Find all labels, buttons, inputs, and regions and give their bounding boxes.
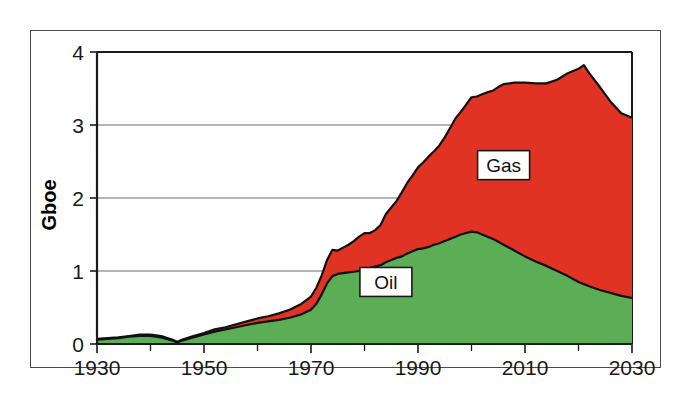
x-tick-label-1990: 1990 xyxy=(395,356,442,379)
x-tick-label-2030: 2030 xyxy=(609,356,656,379)
y-tick-label-0: 0 xyxy=(72,333,84,356)
y-tick-label-3: 3 xyxy=(72,114,84,137)
y-axis-ticks: 01234 xyxy=(72,41,97,356)
x-axis-ticks: 193019501970199020102030 xyxy=(74,344,656,379)
y-tick-label-2: 2 xyxy=(72,187,84,210)
chart-svg: 01234 193019501970199020102030 Gboe GasO… xyxy=(0,0,683,396)
y-axis-title: Gboe xyxy=(38,179,60,230)
x-tick-label-2010: 2010 xyxy=(502,356,549,379)
x-tick-label-1930: 1930 xyxy=(74,356,121,379)
x-tick-label-1950: 1950 xyxy=(181,356,228,379)
legend-annotation-label: Oil xyxy=(374,272,397,293)
legend-annotation-gas: Gas xyxy=(478,151,530,180)
legend-annotation-label: Gas xyxy=(486,155,521,176)
y-tick-label-4: 4 xyxy=(72,41,84,64)
figure-container: 01234 193019501970199020102030 Gboe GasO… xyxy=(0,0,683,396)
x-tick-label-1970: 1970 xyxy=(288,356,335,379)
y-tick-label-1: 1 xyxy=(72,260,84,283)
legend-annotation-oil: Oil xyxy=(360,267,412,296)
